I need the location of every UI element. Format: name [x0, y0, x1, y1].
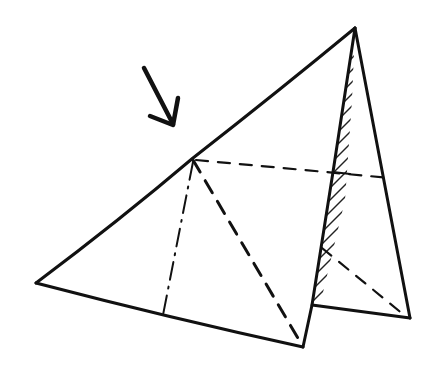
- flap-left-edge: [303, 28, 355, 347]
- left-to-bottom-edge: [36, 283, 303, 347]
- fold-diagram-canvas: Hand-drawn sketch of a folded triangular…: [0, 0, 437, 378]
- fold-diagonal-line: [193, 160, 302, 345]
- left-to-apex-edge: [36, 28, 355, 283]
- altitude-line: [163, 162, 193, 315]
- flap-right-edge: [355, 28, 410, 318]
- flap-hidden-diagonal: [322, 248, 404, 315]
- arrow-icon: [144, 68, 178, 125]
- fold-diagram-svg: [0, 0, 437, 378]
- hidden-horizontal-edge: [196, 160, 390, 178]
- hatched-face: [300, 40, 370, 326]
